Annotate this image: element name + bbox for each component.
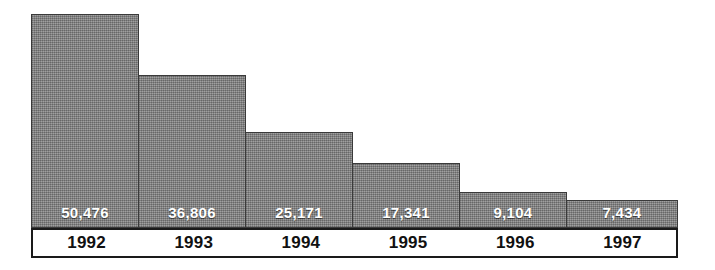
bar-1994: 25,171: [245, 132, 353, 228]
bar-value-label: 9,104: [460, 205, 566, 221]
bar-value-label: 50,476: [32, 205, 138, 221]
bar-value-label: 7,434: [567, 205, 677, 221]
bar-1997: 7,434: [566, 200, 678, 228]
bar-value-label: 25,171: [246, 205, 352, 221]
bar-column-1997: 7,434: [566, 14, 678, 228]
bar-column-1996: 9,104: [459, 14, 567, 228]
bar-1996: 9,104: [459, 192, 567, 228]
bar-1993: 36,806: [138, 75, 246, 228]
category-label-1995: 1995: [355, 230, 462, 256]
category-label-1992: 1992: [33, 230, 140, 256]
category-label-1997: 1997: [569, 230, 676, 256]
bar-1995: 17,341: [352, 163, 460, 228]
bar-chart: 50,476 36,806 25,171 17,341 9,104 7: [0, 0, 715, 270]
plot-area: 50,476 36,806 25,171 17,341 9,104 7: [31, 14, 678, 228]
bar-column-1993: 36,806: [138, 14, 246, 228]
category-label-1994: 1994: [247, 230, 354, 256]
bar-column-1995: 17,341: [352, 14, 460, 228]
category-axis-labels: 1992 1993 1994 1995 1996 1997: [31, 228, 678, 258]
bar-column-1992: 50,476: [31, 14, 139, 228]
bar-value-label: 36,806: [139, 205, 245, 221]
category-label-1993: 1993: [140, 230, 247, 256]
bar-1992: 50,476: [31, 14, 139, 228]
bar-value-label: 17,341: [353, 205, 459, 221]
bar-column-1994: 25,171: [245, 14, 353, 228]
category-label-1996: 1996: [462, 230, 569, 256]
